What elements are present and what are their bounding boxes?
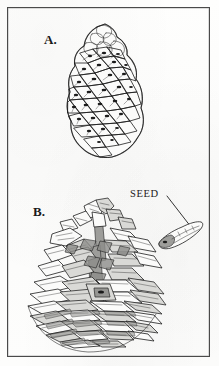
seed-annotation-label: SEED (130, 189, 159, 200)
pine-cone-plate: A. B. SEED (0, 0, 219, 366)
seed-detail (0, 0, 219, 366)
figure-b-label: B. (33, 205, 45, 218)
seed-leader-line (167, 196, 191, 227)
figure-a-label: A. (44, 33, 57, 46)
seed-shape (159, 222, 203, 249)
